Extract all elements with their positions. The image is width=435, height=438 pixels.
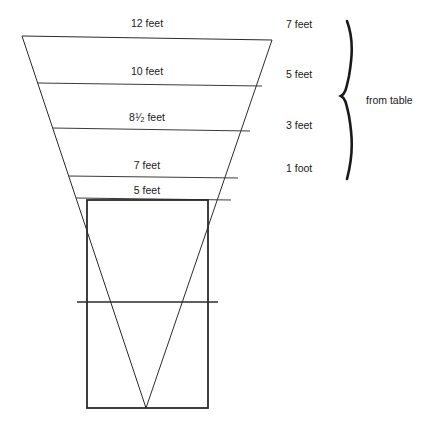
width-12-feet-label: 12 feet bbox=[131, 18, 163, 29]
height-3-feet-label: 3 feet bbox=[286, 120, 312, 131]
funnel-top-edge bbox=[22, 36, 272, 40]
divider-10-feet bbox=[38, 83, 263, 86]
diagram-canvas bbox=[0, 0, 435, 438]
fraction-denominator: 2 bbox=[141, 116, 145, 123]
width-7-feet-label: 7 feet bbox=[134, 160, 160, 171]
width-8-and-half-feet-label: 81⁄2 feet bbox=[129, 112, 165, 123]
funnel-left-edge bbox=[22, 36, 146, 408]
fraction-unit: feet bbox=[144, 111, 164, 123]
funnel-right-edge bbox=[146, 40, 272, 408]
height-5-feet-label: 5 feet bbox=[286, 69, 312, 80]
height-1-foot-label: 1 foot bbox=[286, 163, 312, 174]
width-10-feet-label: 10 feet bbox=[131, 66, 163, 77]
width-5-feet-label: 5 feet bbox=[134, 185, 160, 196]
height-7-feet-label: 7 feet bbox=[286, 19, 312, 30]
curly-brace-icon bbox=[341, 21, 352, 179]
from-table-caption: from table bbox=[366, 95, 413, 106]
divider-7-feet bbox=[69, 176, 239, 178]
divider-8-and-half-feet bbox=[53, 128, 251, 131]
table-rectangle bbox=[87, 200, 208, 408]
funnel-diagram: 12 feet 10 feet 81⁄2 feet 7 feet 5 feet … bbox=[0, 0, 435, 438]
